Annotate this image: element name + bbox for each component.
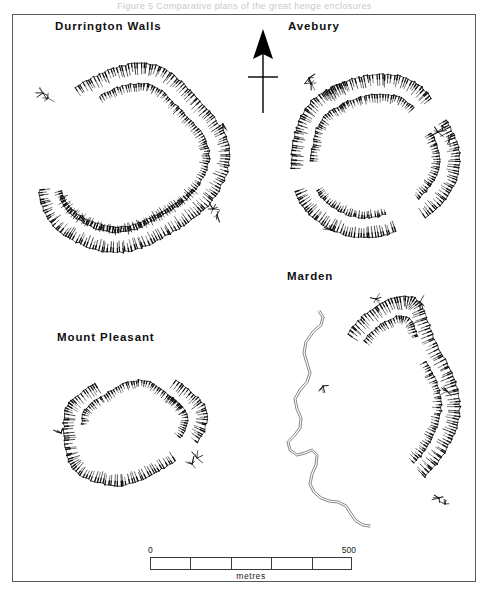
- hachure-tick-tail: [103, 96, 105, 100]
- crest-dash: [91, 481, 95, 482]
- crest-dash: [211, 113, 213, 115]
- crest-dash: [105, 70, 108, 72]
- hachure-tick-tail: [179, 114, 182, 117]
- hachure-tick-tail: [219, 140, 224, 142]
- crest-dash: [201, 177, 203, 179]
- crest-dash: [379, 324, 381, 326]
- hachure-tick-tail: [203, 197, 208, 201]
- crest-dash: [51, 222, 52, 225]
- hachure-tick-tail: [114, 391, 116, 394]
- crest-dash: [86, 387, 89, 389]
- crest-dash: [154, 384, 156, 386]
- crest-dash: [364, 313, 367, 314]
- hachure-tick-tail: [391, 322, 393, 327]
- crest-dash: [333, 207, 336, 208]
- crest-dash: [406, 317, 409, 318]
- crest-dash: [428, 442, 430, 444]
- crest-dash: [88, 386, 90, 387]
- hachure-tick-tail: [196, 135, 200, 138]
- hachure-tick-tail: [198, 174, 202, 176]
- scale-division-tick: [271, 557, 272, 570]
- hachure-band-inner-ditch: [340, 94, 414, 112]
- crest-dash: [186, 86, 188, 89]
- hachure-tick-tail: [163, 96, 165, 99]
- hachure-tick-tail: [92, 406, 95, 409]
- crest-dash: [319, 222, 321, 225]
- crest-dash: [170, 463, 172, 464]
- hachure-band-outer-bank: [63, 384, 175, 487]
- crest-dash: [173, 230, 176, 231]
- tuft-stroke: [439, 498, 440, 502]
- hachure-tick-tail: [171, 106, 174, 109]
- hachure-tick-tail: [184, 391, 187, 395]
- henge-comparative-plan-figure: Figure 5 Comparative plans of the great …: [0, 0, 489, 594]
- hachure-tick-tail: [74, 232, 77, 237]
- hachure-tick-tail: [191, 185, 194, 188]
- crest-dash: [180, 436, 182, 438]
- tuft-stroke: [197, 451, 198, 458]
- crest-dash: [399, 97, 401, 98]
- hachure-tick-tail: [200, 199, 206, 204]
- earthwork-mount-pleasant: [54, 380, 208, 487]
- crest-dash: [182, 81, 184, 84]
- hachure-band-inner-ditch: [310, 104, 346, 162]
- crest-dash: [451, 131, 453, 133]
- hachure-tick-tail: [210, 189, 215, 192]
- crest-dash: [457, 174, 458, 177]
- crest-dash: [425, 447, 426, 450]
- crest-dash: [329, 110, 332, 112]
- crest-dash: [449, 367, 451, 371]
- crest-dash: [159, 468, 162, 471]
- hachure-tick-tail: [339, 110, 341, 114]
- hachure-tick-tail: [318, 129, 322, 131]
- hachure-tick-tail: [416, 193, 419, 196]
- crest-dash: [353, 99, 356, 101]
- crest-dash: [206, 410, 207, 413]
- hachure-tick-tail: [100, 76, 102, 81]
- hachure-tick-tail: [123, 70, 125, 77]
- hachure-tick-tail: [210, 125, 215, 128]
- hachure-tick-tail: [191, 128, 195, 131]
- hachure-tick-tail: [378, 309, 382, 315]
- hachure-tick-tail: [432, 151, 436, 152]
- hachure-tick-tail: [46, 204, 52, 206]
- hachure-tick-tail: [176, 86, 181, 91]
- crest-dash: [116, 387, 118, 388]
- hachure-tick-tail: [387, 305, 391, 312]
- hachure-tick-tail: [155, 390, 158, 394]
- hachure-tick-tail: [109, 73, 111, 78]
- hachure-tick-tail: [352, 228, 353, 234]
- hachure-tick-tail: [160, 393, 162, 396]
- hachure-tick-tail: [190, 208, 194, 213]
- crest-dash: [390, 318, 393, 319]
- hachure-tick-tail: [114, 71, 116, 76]
- hachure-tick-tail: [426, 437, 429, 439]
- hachure-tick-tail: [72, 229, 76, 235]
- hachure-tick-tail: [298, 189, 304, 191]
- crest-dash: [138, 480, 142, 481]
- earthwork-avebury: [291, 74, 460, 238]
- hachure-tick-tail: [188, 189, 191, 191]
- hachure-tick-tail: [336, 90, 339, 97]
- crest-dash: [66, 209, 67, 212]
- hachure-tick-tail: [199, 137, 202, 139]
- crest-dash: [184, 112, 185, 115]
- hachure-tick-tail: [415, 195, 417, 198]
- hachure-tick-tail: [445, 427, 452, 430]
- hachure-tick-tail: [84, 470, 87, 475]
- hachure-tick-tail: [46, 208, 52, 210]
- crest-dash: [83, 81, 86, 83]
- hachure-tick-tail: [98, 402, 101, 406]
- crest-dash: [189, 219, 192, 222]
- crest-dash: [216, 121, 217, 124]
- hachure-tick-tail: [318, 132, 323, 134]
- crest-dash: [132, 249, 136, 251]
- crest-dash: [213, 196, 216, 198]
- tuft-stroke: [217, 215, 220, 222]
- crest-dash: [202, 432, 204, 435]
- crest-dash: [451, 188, 452, 191]
- crest-dash: [404, 99, 406, 101]
- hachure-tick-tail: [334, 203, 336, 206]
- hachure-tick-tail: [351, 336, 357, 340]
- hachure-tick-tail: [371, 227, 372, 234]
